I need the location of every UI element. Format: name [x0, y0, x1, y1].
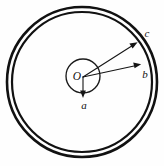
figure-container: c b a O — [0, 0, 164, 166]
vector-a-arrowhead — [80, 91, 86, 98]
vector-c-label: c — [145, 27, 150, 39]
origin-label: O — [73, 70, 82, 82]
vector-c-arrowhead — [129, 42, 137, 48]
vector-b-label: b — [142, 68, 148, 80]
vector-a-label: a — [81, 99, 87, 111]
annulus-vector-diagram: c b a O — [0, 0, 164, 166]
vector-b-arrowhead — [133, 62, 141, 68]
